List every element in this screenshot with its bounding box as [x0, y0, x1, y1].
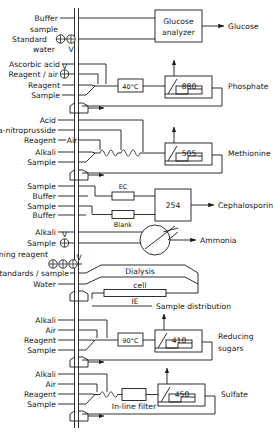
blank-column — [112, 211, 134, 219]
label-sample-5: Sample — [27, 239, 56, 248]
label-valve-v-2: V — [62, 62, 68, 71]
label-reagent-3: Reagent — [24, 336, 56, 345]
label-det-410: 410 — [172, 336, 187, 345]
gas-sensing-electrode — [140, 225, 170, 255]
ie-column — [104, 290, 166, 297]
output-reducing: Reducing — [218, 332, 254, 341]
peristaltic-pump-bundle — [75, 8, 79, 428]
label-standard: Standard — [12, 35, 47, 44]
channel-sulfate — [58, 368, 215, 421]
label-acid: Acid — [40, 116, 56, 125]
channel-glucose — [60, 10, 224, 42]
label-valve-v-1: V — [68, 45, 74, 54]
label-sample-2: Sample — [27, 158, 56, 167]
diagram-canvas: Buffer sample Standard water V Glucose a… — [0, 0, 275, 435]
label-sample-1: Sample — [31, 91, 60, 100]
label-sample-7: Sample — [27, 400, 56, 409]
label-alkali-3: Alkali — [35, 316, 56, 325]
output-sugars: sugars — [218, 344, 244, 353]
output-methionine: Methionine — [228, 149, 271, 158]
output-sulfate: Sulfate — [221, 390, 248, 399]
label-valve-v-3: V — [62, 230, 68, 239]
channel-methionine — [58, 120, 222, 180]
label-reagent-1: Reagent — [28, 81, 60, 90]
channel-phosphate — [62, 60, 222, 113]
label-water: Water — [33, 280, 57, 289]
label-buffer: Buffer — [35, 14, 59, 23]
output-ammonia: Ammonia — [200, 236, 237, 245]
flow-analysis-diagram: Buffer sample Standard water V Glucose a… — [0, 0, 275, 435]
valve-group-ammonia — [60, 239, 68, 247]
label-blank-column: Blank — [114, 221, 133, 229]
label-sample-4: Sample — [27, 202, 56, 211]
label-sample-3: Sample — [27, 182, 56, 191]
label-reagent-2: Reagent — [24, 136, 56, 145]
label-sample-6: Sample — [27, 346, 56, 355]
label-dialysis: Dialysis — [125, 267, 155, 276]
label-water-lc: water — [33, 45, 56, 54]
output-phosphate: Phosphate — [228, 82, 269, 91]
label-sample-lc: sample — [30, 25, 58, 34]
label-det-254: 254 — [166, 201, 181, 210]
label-alkali-2: Alkali — [35, 228, 56, 237]
output-glucose: Glucose — [228, 22, 259, 31]
output-sample-distribution: Sample distribution — [156, 302, 231, 311]
label-reagent-4: Reagent — [24, 390, 56, 399]
label-in-line-filter: In-line filter — [112, 402, 157, 411]
valve-group-sample-distribution — [49, 260, 77, 268]
label-valve-v-4: V — [76, 253, 82, 262]
valve-group-phosphate — [60, 70, 68, 78]
label-buffer-2: Buffer — [33, 192, 57, 201]
channel-cephalosporin — [58, 186, 214, 221]
label-det-505: 505 — [182, 149, 197, 158]
in-line-filter-box — [122, 389, 146, 401]
label-ec-column: EC — [119, 183, 128, 191]
label-cell: cell — [133, 281, 146, 290]
label-bath-40c: 40°C — [122, 83, 139, 91]
output-cephalosporin: Cephalosporin — [218, 201, 273, 210]
label-standards-sample: Standards / sample — [0, 269, 69, 278]
label-buffer-3: Buffer — [33, 211, 57, 220]
label-na-nitroprusside: Na-nitroprusside — [0, 126, 56, 135]
glucose-analyzer-box — [155, 10, 202, 42]
label-alkali-1: Alkali — [35, 148, 56, 157]
label-air-2: Air — [45, 326, 56, 335]
label-bath-90c: 90°C — [122, 337, 139, 345]
label-alkali-4: Alkali — [35, 370, 56, 379]
label-air-3: Air — [45, 380, 56, 389]
label-ie-column: IE — [131, 297, 138, 306]
label-cleaning-reagent: Cleaning reagent — [0, 250, 48, 259]
glucose-analyzer-label-2: analyzer — [162, 28, 196, 37]
label-det-450: 450 — [175, 390, 190, 399]
label-reagent-air: Reagent / air — [9, 70, 59, 79]
ec-column — [112, 192, 134, 200]
label-det-880: 880 — [182, 82, 197, 91]
label-air-1: Air — [67, 136, 78, 145]
label-ascorbic-acid: Ascorbic acid — [9, 60, 60, 69]
glucose-analyzer-label-1: Glucose — [163, 17, 194, 26]
